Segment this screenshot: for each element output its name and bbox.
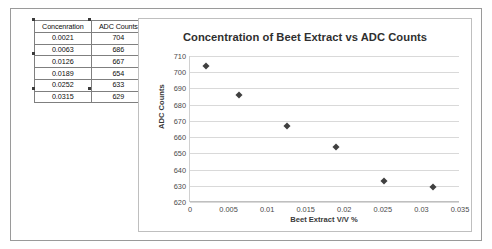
selection-handle-top-left[interactable]	[32, 18, 35, 21]
y-axis-tick-label: 640	[174, 165, 186, 174]
y-axis-tick-label: 630	[174, 181, 186, 190]
table-header-row: Concenration ADC Counts	[35, 21, 146, 33]
chart-container[interactable]: Concentration of Beet Extract vs ADC Cou…	[138, 18, 472, 232]
cell-concentration[interactable]: 0.0315	[35, 91, 92, 103]
y-axis-tick-label: 700	[174, 68, 186, 77]
gridline-horizontal	[190, 186, 459, 187]
gridline-horizontal	[190, 105, 459, 106]
data-point-marker	[284, 122, 291, 129]
data-table-container[interactable]: Concenration ADC Counts 0.0021 704 0.006…	[34, 20, 146, 103]
table-body: 0.0021 704 0.0063 686 0.0126 667 0.0189 …	[35, 32, 146, 103]
table-row[interactable]: 0.0126 667	[35, 56, 146, 68]
x-axis-tick-label: 0.035	[451, 205, 470, 214]
cell-concentration[interactable]: 0.0063	[35, 44, 92, 56]
table-row[interactable]: 0.0021 704	[35, 32, 146, 44]
x-axis-line	[190, 201, 459, 202]
selection-handle-middle-left[interactable]	[32, 52, 35, 55]
gridline-horizontal	[190, 202, 459, 203]
plot-area: 620630640650660670680690700710 00.0050.0…	[189, 56, 459, 202]
y-axis-tick-label: 680	[174, 100, 186, 109]
y-axis-tick-label: 650	[174, 149, 186, 158]
x-axis-tick-label: 0.015	[296, 205, 315, 214]
table-row[interactable]: 0.0315 629	[35, 91, 146, 103]
gridline-horizontal	[190, 153, 459, 154]
y-axis-title: ADC Counts	[157, 84, 166, 129]
gridline-horizontal	[190, 170, 459, 171]
cell-concentration[interactable]: 0.0252	[35, 79, 92, 91]
data-point-marker	[332, 143, 339, 150]
document-page: Concenration ADC Counts 0.0021 704 0.006…	[10, 8, 482, 241]
x-axis-tick-label: 0.01	[260, 205, 274, 214]
table-row[interactable]: 0.0063 686	[35, 44, 146, 56]
x-axis-tick-label: 0.02	[337, 205, 351, 214]
gridline-horizontal	[190, 137, 459, 138]
x-axis-tick-label: 0.025	[374, 205, 393, 214]
selection-handle-bottom-center[interactable]	[88, 87, 91, 90]
data-point-marker	[381, 177, 388, 184]
y-axis-tick-label: 690	[174, 84, 186, 93]
gridline-horizontal	[190, 121, 459, 122]
selection-handle-bottom-left[interactable]	[32, 87, 35, 90]
chart-title: Concentration of Beet Extract vs ADC Cou…	[139, 31, 471, 43]
gridline-horizontal	[190, 72, 459, 73]
cell-concentration[interactable]: 0.0021	[35, 32, 92, 44]
x-axis-tick-label: 0	[188, 205, 192, 214]
cell-concentration[interactable]: 0.0189	[35, 68, 92, 80]
selection-handle-top-center[interactable]	[88, 18, 91, 21]
data-point-marker	[235, 91, 242, 98]
column-header-concentration: Concenration	[35, 21, 92, 33]
y-axis-tick-label: 620	[174, 198, 186, 207]
plot-area-wrapper: 620630640650660670680690700710 00.0050.0…	[189, 56, 459, 202]
x-axis-tick-label: 0.005	[219, 205, 238, 214]
y-axis-tick-label: 710	[174, 52, 186, 61]
x-axis-tick-label: 0.03	[414, 205, 428, 214]
gridline-horizontal	[190, 88, 459, 89]
table-row[interactable]: 0.0189 654	[35, 68, 146, 80]
data-point-marker	[203, 62, 210, 69]
data-table[interactable]: Concenration ADC Counts 0.0021 704 0.006…	[34, 20, 146, 103]
x-axis-title: Beet Extract V/V %	[189, 215, 459, 224]
cell-concentration[interactable]: 0.0126	[35, 56, 92, 68]
y-axis-tick-label: 670	[174, 116, 186, 125]
gridline-horizontal	[190, 56, 459, 57]
y-axis-tick-label: 660	[174, 133, 186, 142]
